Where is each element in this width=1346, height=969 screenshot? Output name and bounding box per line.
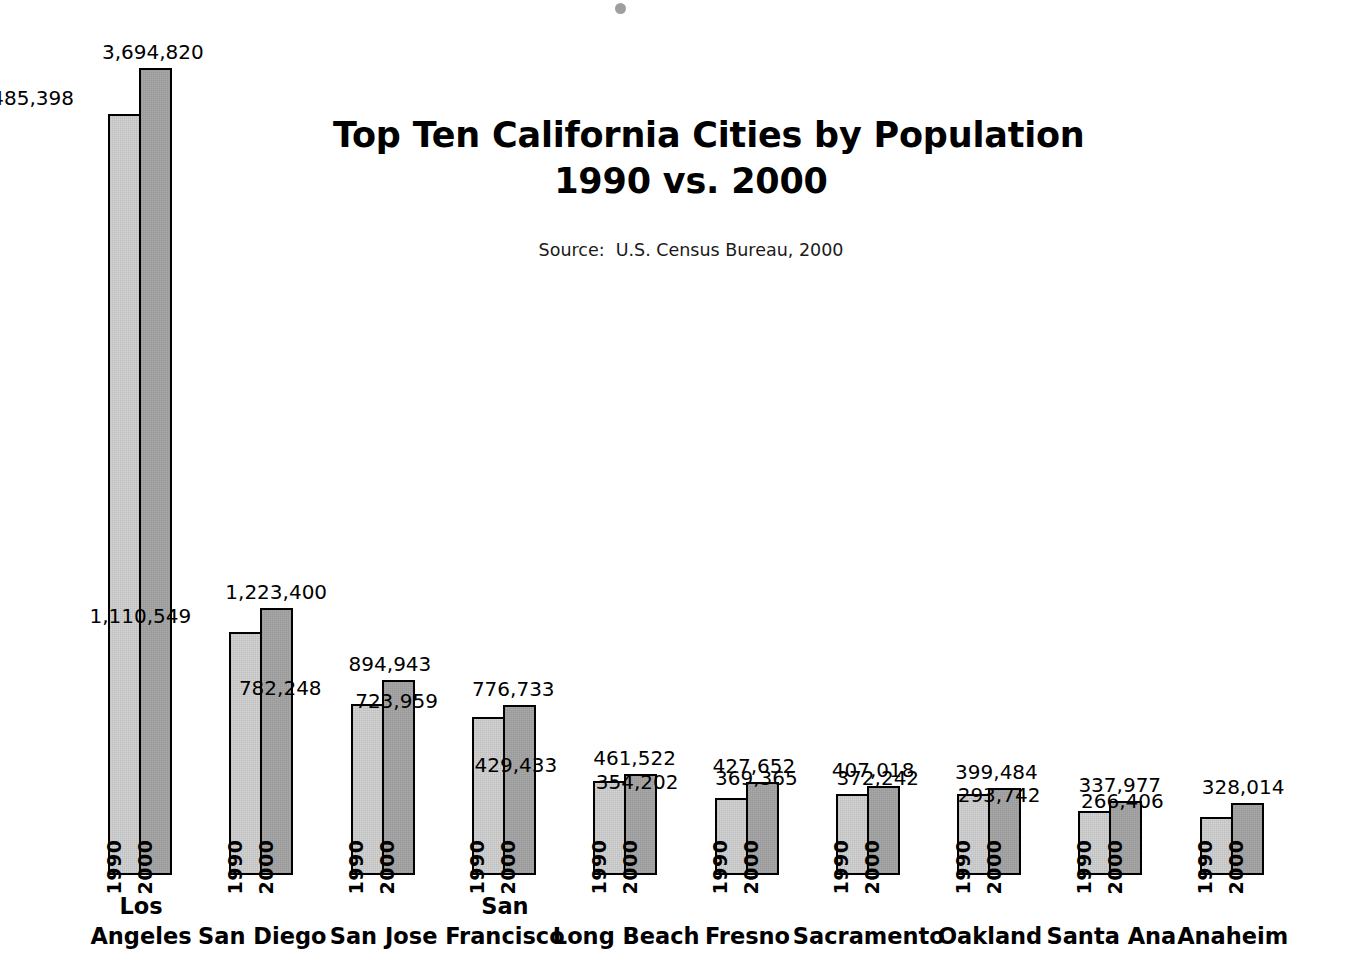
- bar-series-label-2000: 2000: [134, 840, 156, 895]
- value-label-2000: 461,522: [593, 746, 676, 770]
- chart-plot-area: 199020003,485,3983,694,820LosAngeles1990…: [0, 0, 1346, 969]
- bar-pair: 19902000: [1200, 803, 1264, 875]
- value-label-2000: 894,943: [349, 652, 432, 676]
- value-label-1990: 782,248: [239, 676, 322, 700]
- value-label-1990: 293,742: [958, 783, 1041, 807]
- value-label-2000: 776,733: [472, 677, 555, 701]
- bar-series-label-1990: 1990: [830, 840, 852, 895]
- bar-series-label-2000: 2000: [255, 840, 277, 895]
- bar-series-label-2000: 2000: [1225, 840, 1247, 895]
- bar-pair: 19902000: [472, 705, 536, 875]
- value-label-1990: 372,242: [836, 766, 919, 790]
- value-label-2000: 3,694,820: [102, 40, 204, 64]
- category-label-line-1: Anaheim: [1138, 921, 1328, 951]
- bar-2000[interactable]: 2000: [139, 68, 172, 875]
- value-label-1990: 354,202: [596, 770, 679, 794]
- value-label-2000: 399,484: [955, 760, 1038, 784]
- value-label-2000: 328,014: [1202, 775, 1285, 799]
- bar-series-label-1990: 1990: [466, 840, 488, 895]
- bar-series-label-2000: 2000: [740, 840, 762, 895]
- bar-series-label-1990: 1990: [709, 840, 731, 895]
- bar-series-label-1990: 1990: [588, 840, 610, 895]
- value-label-1990: 369,365: [715, 766, 798, 790]
- bar-2000[interactable]: 2000: [746, 782, 779, 875]
- bar-series-label-1990: 1990: [103, 840, 125, 895]
- bar-series-label-2000: 2000: [861, 840, 883, 895]
- value-label-1990: 429,433: [474, 753, 557, 777]
- bar-2000[interactable]: 2000: [503, 705, 536, 875]
- bar-series-label-2000: 2000: [619, 840, 641, 895]
- bar-series-label-2000: 2000: [1104, 840, 1126, 895]
- bar-series-label-2000: 2000: [497, 840, 519, 895]
- bar-pair: 19902000: [108, 68, 172, 875]
- bar-series-label-1990: 1990: [1073, 840, 1095, 895]
- value-label-1990: 3,485,398: [0, 86, 74, 110]
- bar-2000[interactable]: 2000: [260, 608, 293, 875]
- category-label: Anaheim: [1138, 921, 1328, 951]
- bar-2000[interactable]: 2000: [1231, 803, 1264, 875]
- bar-series-label-2000: 2000: [376, 840, 398, 895]
- bar-series-label-2000: 2000: [983, 840, 1005, 895]
- value-label-2000: 1,223,400: [225, 580, 327, 604]
- category-label-line-1: San: [410, 891, 600, 921]
- bar-series-label-1990: 1990: [952, 840, 974, 895]
- category-label-line-1: Los: [46, 891, 236, 921]
- population-bar-chart-figure: Top Ten California Cities by Population …: [0, 0, 1346, 969]
- bar-series-label-1990: 1990: [345, 840, 367, 895]
- value-label-1990: 1,110,549: [90, 604, 192, 628]
- bar-series-label-1990: 1990: [1194, 840, 1216, 895]
- bar-pair: 19902000: [715, 782, 779, 875]
- bar-pair: 19902000: [229, 608, 293, 875]
- bar-pair: 19902000: [836, 786, 900, 875]
- bar-series-label-1990: 1990: [224, 840, 246, 895]
- value-label-1990: 723,959: [355, 689, 438, 713]
- bar-1990[interactable]: 1990: [108, 114, 141, 875]
- bar-2000[interactable]: 2000: [867, 786, 900, 875]
- value-label-1990: 266,406: [1081, 789, 1164, 813]
